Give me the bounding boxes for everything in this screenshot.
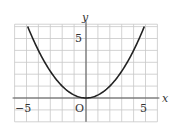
y-axis-label: y xyxy=(81,11,89,24)
x-tick-label-5: 5 xyxy=(140,102,147,115)
x-axis-label: x xyxy=(162,92,169,105)
axes xyxy=(13,21,160,122)
x-tick-label-neg5: −5 xyxy=(15,102,31,115)
y-tick-label-5: 5 xyxy=(75,32,82,45)
parabola-chart: x y O −5 5 5 xyxy=(0,0,175,131)
origin-label: O xyxy=(75,102,84,115)
